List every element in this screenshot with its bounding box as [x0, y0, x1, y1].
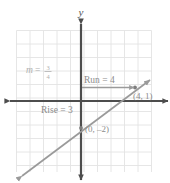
slope-equals-sign: = [35, 65, 40, 75]
point-y-intercept [79, 126, 83, 130]
point-intercept-label: (0, –2) [85, 124, 109, 134]
y-axis-label: y [78, 6, 84, 18]
rise-label: Rise = 3 [41, 105, 73, 115]
slope-variable: m [26, 65, 33, 75]
point-second-label: (4, 1) [133, 91, 153, 101]
slope-graph-figure: y Run = 4 Rise = 3 (0, –2) (4, 1) m = 3 … [0, 0, 170, 183]
run-label: Run = 4 [84, 75, 115, 85]
slope-numerator: 3 [46, 64, 49, 71]
